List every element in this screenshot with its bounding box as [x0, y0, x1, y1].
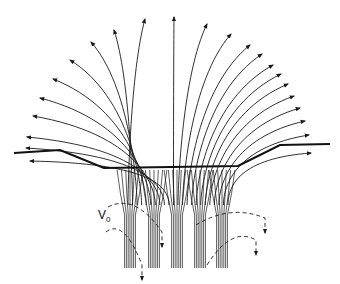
- surface-profile: [14, 144, 330, 168]
- field-lines: [26, 17, 311, 205]
- v0-label: V0: [98, 208, 110, 224]
- field-line-diagram: V0: [0, 0, 340, 284]
- diagram-canvas: [0, 0, 340, 284]
